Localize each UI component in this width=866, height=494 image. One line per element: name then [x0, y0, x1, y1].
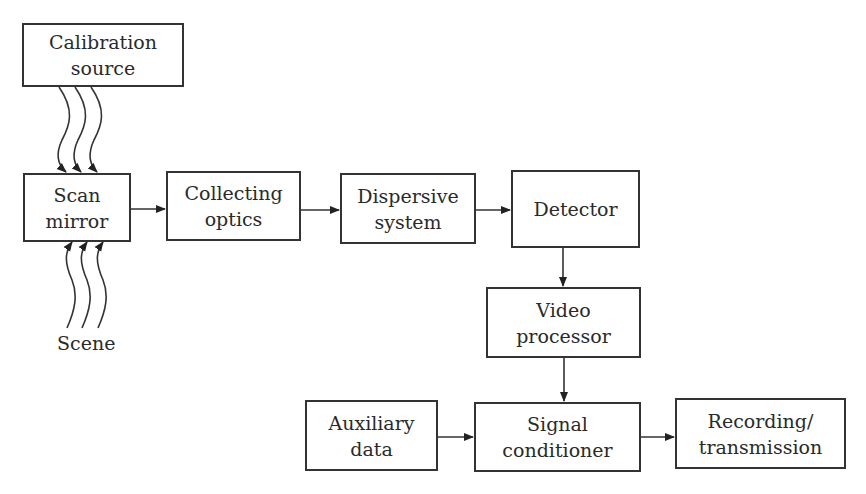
detector-line1: Detector	[533, 196, 617, 222]
wavy-arrow-scene-1	[66, 242, 75, 328]
collecting-optics-box: Collecting optics	[166, 171, 301, 241]
scene-label: Scene	[57, 332, 115, 354]
wavy-arrow-calibration-1	[58, 87, 69, 172]
dispersive-system-box: Dispersive system	[340, 173, 476, 244]
dispersive-system-line2: system	[374, 209, 441, 235]
signal-conditioner-line2: conditioner	[502, 437, 612, 463]
signal-conditioner-line1: Signal	[527, 411, 588, 437]
scan-mirror-line1: Scan	[53, 182, 100, 208]
signal-conditioner-box: Signal conditioner	[474, 402, 641, 472]
calibration-source-line1: Calibration	[49, 29, 157, 55]
scan-mirror-box: Scan mirror	[23, 173, 131, 242]
collecting-optics-line1: Collecting	[184, 180, 282, 206]
video-processor-line1: Video	[536, 297, 590, 323]
auxiliary-data-box: Auxiliary data	[305, 400, 438, 471]
wavy-arrow-scene-3	[97, 242, 106, 328]
calibration-source-box: Calibration source	[22, 23, 184, 87]
scan-mirror-line2: mirror	[46, 208, 109, 234]
recording-transmission-line2: transmission	[699, 434, 822, 460]
auxiliary-data-line2: data	[350, 436, 392, 462]
recording-transmission-box: Recording/ transmission	[675, 398, 846, 469]
wavy-arrow-scene-2	[81, 242, 90, 328]
wavy-arrow-calibration-3	[90, 87, 101, 172]
collecting-optics-line2: optics	[205, 206, 263, 232]
wavy-arrow-calibration-2	[74, 87, 85, 172]
calibration-source-line2: source	[71, 55, 135, 81]
recording-transmission-line1: Recording/	[708, 408, 814, 434]
video-processor-box: Video processor	[486, 287, 641, 358]
detector-box: Detector	[511, 170, 640, 248]
dispersive-system-line1: Dispersive	[357, 183, 458, 209]
video-processor-line2: processor	[516, 323, 611, 349]
auxiliary-data-line1: Auxiliary	[328, 410, 414, 436]
